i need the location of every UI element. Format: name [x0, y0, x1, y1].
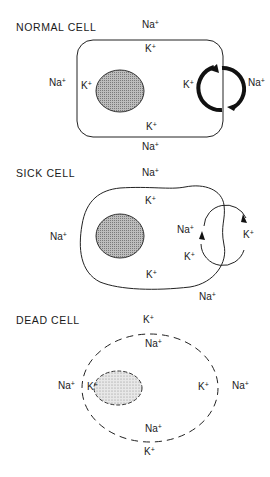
- ion-label: Na+: [142, 20, 159, 30]
- sick-cell-nucleus: [96, 214, 144, 258]
- normal-cell-nucleus: [96, 70, 144, 112]
- ion-label: K+: [145, 44, 156, 54]
- ion-label: Na+: [50, 232, 67, 242]
- ion-label: Na+: [248, 78, 265, 88]
- ion-label: Na+: [142, 142, 159, 152]
- dead-cell-nucleus: [94, 371, 142, 405]
- ion-label: K+: [183, 80, 194, 90]
- ion-label: Na+: [58, 381, 75, 391]
- ion-label: Na+: [49, 78, 66, 88]
- ion-label: K+: [146, 122, 157, 132]
- dead-cell-title: DEAD CELL: [16, 314, 80, 326]
- ion-label: Na+: [145, 339, 162, 349]
- ion-label: K+: [146, 270, 157, 280]
- normal-cell: [77, 40, 244, 137]
- normal-cell-title: NORMAL CELL: [16, 21, 96, 33]
- cell-diagram: [0, 0, 270, 477]
- ion-label: K+: [184, 252, 195, 262]
- ion-label: Na+: [142, 168, 159, 178]
- ion-label: K+: [243, 230, 254, 240]
- ion-label: K+: [87, 382, 98, 392]
- ion-label: Na+: [145, 424, 162, 434]
- ion-label: K+: [145, 196, 156, 206]
- ion-label: Na+: [177, 225, 194, 235]
- ion-label: K+: [144, 447, 155, 457]
- ion-label: K+: [143, 315, 154, 325]
- ion-label: Na+: [199, 292, 216, 302]
- ion-label: K+: [81, 81, 92, 91]
- sodium-potassium-pump-icon: [198, 64, 244, 111]
- ion-label: Na+: [232, 381, 249, 391]
- sick-cell-title: SICK CELL: [16, 167, 75, 179]
- sick-cell: [80, 186, 247, 289]
- ion-label: K+: [198, 382, 209, 392]
